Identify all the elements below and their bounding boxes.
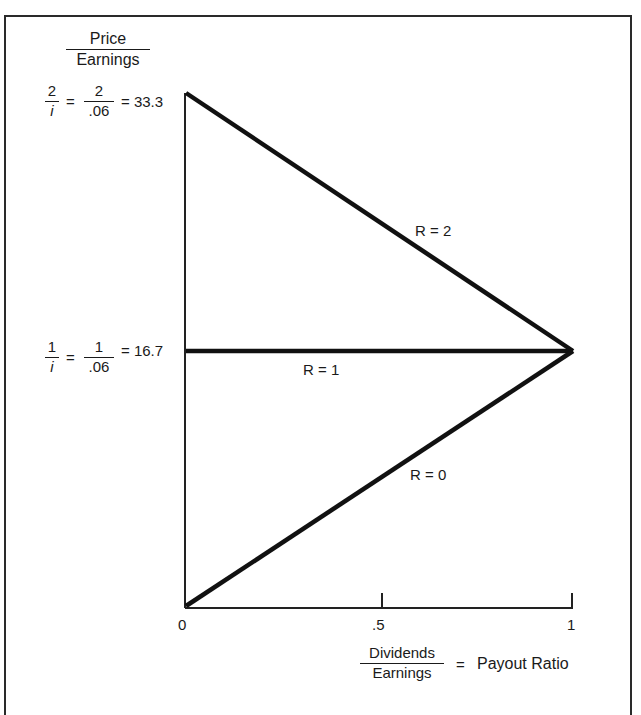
x-label-eq: = [456, 657, 465, 672]
frac-denominator: i [48, 359, 55, 376]
line-r0 [186, 351, 573, 606]
frac-numerator: 1 [46, 339, 58, 356]
frac-numerator: 2 [46, 83, 58, 100]
frac-numerator: 1 [93, 339, 105, 356]
fraction-bar [66, 49, 150, 51]
y-tick-33-frac1: 2 i [45, 83, 59, 120]
y-tick-16-frac2: 1 .06 [84, 339, 114, 376]
x-tick-label-1: 1 [567, 617, 575, 632]
frac-denominator: .06 [87, 359, 112, 376]
y-label-denominator: Earnings [74, 51, 141, 69]
x-axis-label-fraction: Dividends Earnings [360, 645, 444, 682]
y-tick-33-frac2: 2 .06 [84, 83, 114, 120]
line-r2 [186, 93, 573, 351]
frac-numerator: 2 [93, 83, 105, 100]
y-tick-33-value: = 33.3 [121, 94, 163, 109]
x-tick-label-0: 0 [178, 617, 186, 632]
y-label-numerator: Price [88, 30, 128, 48]
y-axis-label: Price Earnings [66, 30, 150, 69]
frac-denominator: i [48, 103, 55, 120]
y-tick-16-eq: = [66, 350, 75, 365]
label-r1: R = 1 [303, 362, 339, 377]
label-r2: R = 2 [415, 223, 451, 238]
y-tick-33-eq: = [66, 94, 75, 109]
y-tick-16-value: = 16.7 [121, 343, 163, 358]
label-r0: R = 0 [410, 467, 446, 482]
x-label-numerator: Dividends [367, 645, 437, 662]
x-axis-label-name: Payout Ratio [477, 656, 569, 672]
x-tick-label-05: .5 [372, 617, 385, 632]
x-label-denominator: Earnings [370, 665, 433, 682]
y-tick-16-frac1: 1 i [45, 339, 59, 376]
frac-denominator: .06 [87, 103, 112, 120]
